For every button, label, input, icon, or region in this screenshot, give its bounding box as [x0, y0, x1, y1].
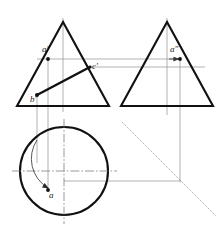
miter-line-group [122, 122, 216, 216]
label-a-front: a′ [42, 45, 48, 54]
drawing-sheet: a′ c′ b′ a″ a [0, 0, 221, 235]
label-c-front: c′ [92, 62, 98, 71]
point-marker-a-front [46, 57, 50, 61]
generatrix-line-group [37, 67, 90, 95]
generatrix-line-bc-front [37, 67, 90, 95]
point-marker-a-side [178, 57, 182, 61]
rotation-arc-arrow [31, 140, 48, 188]
engineering-drawing-canvas [0, 0, 221, 235]
label-b-front: b′ [30, 95, 36, 104]
label-a-top: a [49, 191, 54, 200]
rotation-arc-group [31, 140, 48, 188]
top-view-circle [12, 119, 117, 224]
label-a-side: a″ [170, 45, 178, 54]
miter-line-45deg [122, 122, 216, 216]
